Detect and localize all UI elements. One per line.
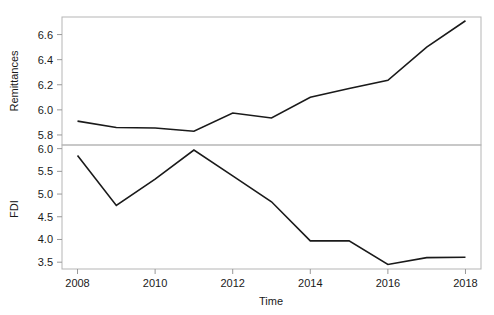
x-tick-label: 2010 bbox=[143, 277, 167, 289]
y-tick-label: 4.5 bbox=[38, 211, 53, 223]
y-tick-label: 5.5 bbox=[38, 165, 53, 177]
fdi-axis-title: FDI bbox=[8, 200, 20, 218]
x-tick-label: 2014 bbox=[298, 277, 322, 289]
remittances-axis-title: Remittances bbox=[8, 50, 20, 112]
chart-figure: 5.86.06.26.46.6 Remittances 3.54.04.55.0… bbox=[0, 0, 494, 315]
y-tick-label: 6.0 bbox=[38, 143, 53, 155]
y-tick-label: 4.0 bbox=[38, 233, 53, 245]
multi-panel-line-chart: 5.86.06.26.46.6 Remittances 3.54.04.55.0… bbox=[0, 0, 494, 315]
x-tick-label: 2016 bbox=[376, 277, 400, 289]
y-tick-label: 6.0 bbox=[38, 104, 53, 116]
y-tick-label: 5.8 bbox=[38, 129, 53, 141]
x-tick-label: 2018 bbox=[453, 277, 477, 289]
y-tick-label: 6.4 bbox=[38, 54, 53, 66]
chart-background bbox=[0, 0, 494, 315]
x-tick-label: 2012 bbox=[220, 277, 244, 289]
y-tick-label: 3.5 bbox=[38, 256, 53, 268]
x-tick-label: 2008 bbox=[65, 277, 89, 289]
y-tick-label: 6.2 bbox=[38, 79, 53, 91]
x-axis-title: Time bbox=[259, 295, 283, 307]
y-tick-label: 6.6 bbox=[38, 29, 53, 41]
y-tick-label: 5.0 bbox=[38, 188, 53, 200]
